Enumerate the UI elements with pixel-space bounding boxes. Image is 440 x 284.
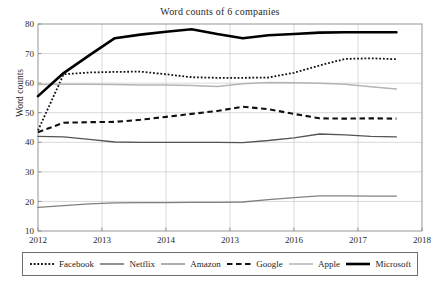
y-tick-label: 80 <box>25 19 35 29</box>
series-line-netflix <box>38 134 396 143</box>
legend-label-facebook: Facebook <box>59 259 94 269</box>
legend-item-netflix[interactable]: Netflix <box>99 259 155 269</box>
legend-item-amazon[interactable]: Amazon <box>160 259 221 269</box>
legend-swatch-amazon <box>160 259 186 269</box>
legend-label-netflix: Netflix <box>129 259 155 269</box>
y-tick-label: 30 <box>25 167 35 177</box>
plot-svg: 1020304050607080201220132014201320162017… <box>0 0 440 250</box>
legend-swatch-google <box>226 259 252 269</box>
series-line-google <box>38 107 396 132</box>
y-tick-label: 70 <box>25 49 35 59</box>
legend-swatch-netflix <box>99 259 125 269</box>
plot-area: 1020304050607080201220132014201320162017… <box>0 0 440 250</box>
series-line-apple <box>38 83 396 90</box>
x-tick-label: 2014 <box>157 235 176 245</box>
legend-item-facebook[interactable]: Facebook <box>29 259 94 269</box>
legend-item-google[interactable]: Google <box>226 259 283 269</box>
y-tick-label: 20 <box>25 197 35 207</box>
x-tick-label: 2013 <box>221 235 240 245</box>
legend-item-microsoft[interactable]: Microsoft <box>345 259 411 269</box>
y-tick-label: 50 <box>25 108 35 118</box>
legend-label-microsoft: Microsoft <box>375 259 411 269</box>
chart-legend: Facebook Netflix Amazon Google Apple Mic… <box>22 252 418 276</box>
y-tick-label: 60 <box>25 78 35 88</box>
legend-swatch-apple <box>288 259 314 269</box>
legend-label-google: Google <box>256 259 283 269</box>
y-axis-label: Word counts <box>15 43 25 143</box>
legend-label-apple: Apple <box>318 259 340 269</box>
legend-item-apple[interactable]: Apple <box>288 259 340 269</box>
x-tick-label: 2018 <box>413 235 432 245</box>
chart-figure: Word counts of 6 companies 1020304050607… <box>0 0 440 284</box>
y-tick-label: 40 <box>25 137 35 147</box>
legend-swatch-microsoft <box>345 259 371 269</box>
legend-label-amazon: Amazon <box>190 259 221 269</box>
x-tick-label: 2013 <box>93 235 112 245</box>
x-tick-label: 2017 <box>349 235 368 245</box>
x-tick-label: 2016 <box>285 235 304 245</box>
legend-swatch-facebook <box>29 259 55 269</box>
x-tick-label: 2012 <box>29 235 47 245</box>
